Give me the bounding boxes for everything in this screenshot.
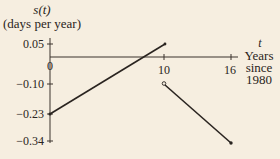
x-tick-label: 10 bbox=[158, 63, 170, 77]
closed-endpoint bbox=[48, 112, 51, 115]
x-axis-title-line3: 1980 bbox=[246, 72, 272, 87]
y-tick-label: 0.05 bbox=[23, 37, 44, 51]
y-axis-symbol: s(t) bbox=[33, 2, 50, 17]
x-tick-label: 16 bbox=[224, 63, 236, 77]
closed-endpoint bbox=[229, 141, 232, 144]
y-tick-label: 0 bbox=[47, 59, 53, 73]
chart: s(t) (days per year) 0.05 0 −0.10 −0.23 … bbox=[0, 0, 280, 159]
y-axis-title: (days per year) bbox=[3, 16, 81, 31]
y-tick-label: −0.34 bbox=[16, 134, 44, 148]
y-tick-label: −0.23 bbox=[16, 107, 44, 121]
series-segment-2 bbox=[165, 85, 231, 143]
closed-endpoint bbox=[164, 43, 167, 46]
y-tick-label: −0.10 bbox=[16, 77, 44, 91]
series-segment-1 bbox=[50, 44, 165, 114]
open-endpoint bbox=[162, 82, 166, 86]
